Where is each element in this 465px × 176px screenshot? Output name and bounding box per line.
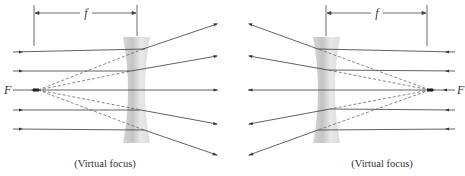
left-diagram: f (3, 5, 218, 170)
focal-length-label: f (84, 6, 89, 20)
refracted-ray-arrows-right (248, 23, 254, 155)
focal-point-marker-right (427, 89, 435, 92)
refracted-ray-arrows (213, 23, 219, 155)
incident-ray-arrows (19, 51, 23, 131)
focal-point-label: F (3, 83, 12, 97)
right-diagram: f (248, 5, 465, 170)
caption-left: (Virtual focus) (74, 158, 136, 170)
focal-point-marker (31, 89, 39, 92)
caption-right: (Virtual focus) (351, 158, 413, 170)
diverging-lens-diagram: f (0, 0, 465, 176)
incident-ray-arrows-right (443, 51, 449, 131)
focal-length-label-right: f (375, 6, 380, 20)
focal-point-label-right: F (456, 83, 465, 97)
